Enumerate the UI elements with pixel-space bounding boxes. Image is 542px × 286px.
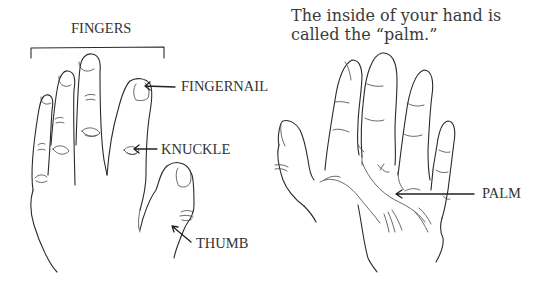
palm-outline-left [304, 206, 316, 222]
palm-caption: The inside of your hand is called the “p… [291, 6, 501, 44]
palm-of-hand-drawing [275, 53, 455, 272]
palm-caption-line-1: The inside of your hand is [291, 6, 501, 25]
right-callout-arrows [396, 190, 474, 198]
fingernail-label: FINGERNAIL [181, 78, 268, 95]
palm-caption-line-2: called the “palm.” [291, 25, 501, 44]
hand-outline-left [31, 190, 57, 272]
palm-outline-right [436, 218, 443, 262]
fingernail-arrow [145, 82, 175, 90]
thumb-arrow [172, 226, 191, 242]
index-finger [107, 79, 152, 210]
hand-outline-right [174, 234, 182, 258]
palm-ring-finger [398, 70, 433, 180]
back-of-hand-drawing [31, 47, 194, 272]
palm-thumb [278, 120, 314, 180]
life-line [320, 179, 380, 223]
knuckle-label: KNUCKLE [161, 141, 230, 158]
palm-pinky-finger [431, 121, 455, 218]
palm-arrow [396, 190, 474, 198]
fingers-label: FINGERS [71, 20, 131, 37]
knuckle-arrow [134, 145, 157, 153]
hand-anatomy-diagram: FINGERS FINGERNAIL KNUCKLE THUMB The ins… [0, 0, 542, 286]
ring-finger [51, 71, 75, 185]
thumb [140, 163, 194, 234]
palm-label: PALM [482, 185, 521, 202]
middle-finger [76, 54, 107, 175]
pinky-finger [32, 95, 53, 190]
palm-index-finger [325, 60, 362, 170]
palm-middle-finger [361, 53, 397, 165]
thumb-label: THUMB [196, 235, 248, 252]
